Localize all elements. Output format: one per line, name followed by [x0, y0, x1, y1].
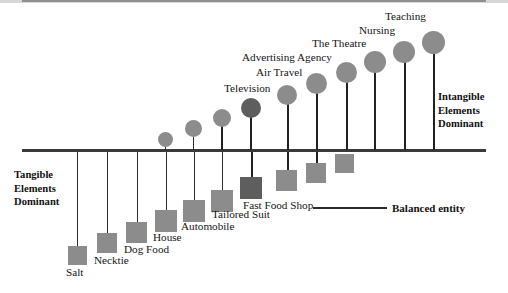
label-dog-food: Dog Food: [124, 244, 169, 256]
label-house: House: [153, 232, 182, 244]
label-teaching: Teaching: [385, 11, 426, 23]
figure-canvas: Television Air Travel Advertising Agency…: [0, 0, 508, 293]
marker-square-salt: [68, 246, 87, 265]
label-air-travel: Air Travel: [256, 67, 302, 79]
balanced-entity-label: Balanced entity: [392, 202, 465, 214]
marker-circle-teaching: [393, 41, 415, 63]
marker-square-dog-food: [126, 222, 147, 243]
label-fast-food-shop: Fast Food Shop: [243, 200, 313, 212]
marker-circle-tailored-suit: [158, 132, 173, 147]
label-necktie: Necktie: [94, 255, 129, 267]
label-nursing: Nursing: [359, 25, 395, 37]
marker-circle-rightmost: [422, 31, 445, 54]
label-salt: Salt: [66, 267, 83, 279]
label-automobile: Automobile: [181, 221, 234, 233]
label-the-theatre: The Theatre: [312, 38, 366, 50]
marker-square-necktie: [97, 233, 117, 253]
marker-circle-the-theatre: [336, 62, 357, 83]
stem-down-necktie: [107, 152, 108, 235]
marker-square-television: [276, 170, 297, 191]
stem-down-house: [166, 152, 167, 212]
label-advertising-agency: Advertising Agency: [242, 52, 332, 64]
axis-label-tangible-line2: Elements: [14, 182, 59, 196]
balanced-entity-leader-line: [313, 207, 387, 208]
top-rule: [22, 0, 486, 2]
marker-circle-nursing: [364, 51, 386, 73]
stem-down-salt: [77, 152, 78, 248]
axis-label-intangible-line2: Elements: [438, 104, 485, 118]
stem-down-fast-food-shop: [251, 152, 253, 179]
axis-label-tangible-line3: Dominant: [14, 195, 59, 209]
marker-square-house: [155, 210, 177, 232]
marker-circle-fast-food-shop: [185, 120, 202, 137]
axis-label-intangible-line3: Dominant: [438, 117, 485, 131]
axis-label-tangible-line1: Tangible: [14, 168, 59, 182]
label-television: Television: [224, 83, 270, 95]
marker-square-advertising-agency: [335, 154, 354, 173]
axis-label-intangible: Intangible Elements Dominant: [438, 90, 485, 131]
stem-down-dog-food: [137, 152, 138, 224]
marker-circle-air-travel: [277, 85, 297, 105]
axis-label-intangible-line1: Intangible: [438, 90, 485, 104]
stem-down-automobile: [194, 152, 195, 202]
marker-circle-television: [241, 98, 261, 118]
marker-circle-advertising-agency: [306, 73, 327, 94]
marker-square-automobile: [183, 200, 205, 222]
stem-up-right-end: [404, 50, 406, 150]
stem-down-tailored-suit: [222, 152, 223, 192]
marker-circle-television-balanced: [213, 109, 231, 127]
axis-label-tangible: Tangible Elements Dominant: [14, 168, 59, 209]
horizontal-axis: [22, 149, 486, 152]
stem-down-television: [287, 152, 289, 172]
stem-up-rightmost: [433, 40, 435, 150]
marker-square-air-travel: [306, 163, 326, 183]
marker-square-fast-food-shop: [240, 177, 262, 199]
balanced-entity-callout: Balanced entity: [313, 202, 465, 214]
